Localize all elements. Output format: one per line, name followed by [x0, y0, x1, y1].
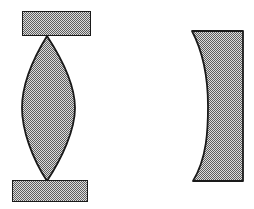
- top-plate: [23, 12, 91, 36]
- top-plate-body: [23, 12, 91, 36]
- bottom-plate-body: [13, 181, 88, 202]
- optical-diagram-svg: Biconvex lens between two plates and a p…: [0, 0, 254, 209]
- figure-canvas: Biconvex lens between two plates and a p…: [0, 0, 254, 209]
- bottom-plate: [13, 181, 88, 202]
